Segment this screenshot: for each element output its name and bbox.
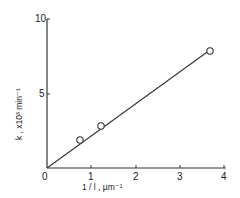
y-tick-label-10: 10 (35, 14, 46, 24)
y-tick-label-5: 5 (39, 89, 45, 99)
data-point (98, 123, 104, 129)
data-point (207, 48, 213, 54)
fit-line (47, 50, 210, 168)
plot-area (0, 0, 240, 198)
data-point (77, 137, 83, 143)
x-axis-title: 1 / l , µm⁻¹ (82, 182, 123, 192)
x-tick-label-2: 2 (133, 172, 139, 182)
x-tick-label-3: 3 (177, 172, 183, 182)
x-tick-label-0: 0 (42, 172, 48, 182)
x-tick-label-1: 1 (88, 172, 94, 182)
chart: 10 5 0 1 2 3 4 k , x10³ min⁻¹ 1 / l , µm… (0, 0, 240, 198)
x-tick-label-4: 4 (221, 172, 227, 182)
y-axis-title: k , x10³ min⁻¹ (14, 40, 24, 140)
